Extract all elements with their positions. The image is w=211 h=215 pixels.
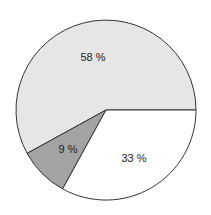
label-33: 33 % [121, 152, 146, 164]
label-58: 58 % [80, 51, 105, 63]
pie-chart [0, 0, 211, 215]
label-9: 9 % [59, 143, 78, 155]
